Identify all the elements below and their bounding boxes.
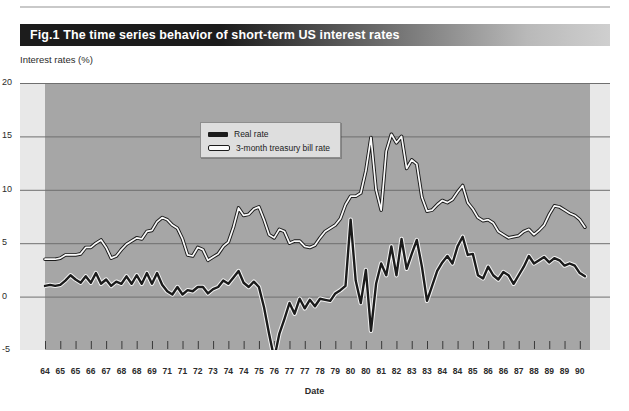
legend-swatch-real-rate-icon — [208, 132, 228, 137]
x-tick-label-3: 66 — [86, 366, 95, 376]
x-tick-label-28: 85 — [468, 366, 477, 376]
x-tick-label-27: 84 — [453, 366, 462, 376]
top-divider-rule — [20, 6, 610, 8]
x-tick-label-25: 83 — [422, 366, 431, 376]
real-rate-line-core — [45, 220, 585, 350]
x-tick-label-5: 68 — [117, 366, 126, 376]
x-tick-label-23: 82 — [392, 366, 401, 376]
x-tick-label-7: 69 — [147, 366, 156, 376]
legend-label-tbill-rate: 3-month treasury bill rate — [236, 143, 330, 153]
legend-label-real-rate: Real rate — [234, 129, 269, 139]
x-tick-label-33: 89 — [545, 366, 554, 376]
x-tick-label-18: 78 — [315, 366, 324, 376]
x-tick-label-17: 77 — [300, 366, 309, 376]
x-tick-label-4: 67 — [101, 366, 110, 376]
real-rate-line-halo — [45, 220, 585, 350]
x-tick-label-12: 74 — [224, 366, 233, 376]
x-tick-label-11: 73 — [208, 366, 217, 376]
x-tick-label-14: 75 — [254, 366, 263, 376]
x-tick-label-21: 80 — [361, 366, 370, 376]
x-tick-label-20: 80 — [346, 366, 355, 376]
legend-item-real-rate: Real rate — [208, 127, 340, 141]
x-tick-label-24: 83 — [407, 366, 416, 376]
legend-swatch-tbill-rate-icon — [208, 145, 230, 151]
figure-container: Fig.1 The time series behavior of short-… — [0, 0, 629, 411]
x-tick-label-16: 77 — [285, 366, 294, 376]
y-tick-label-5: 5 — [2, 237, 18, 247]
series-real-rate — [45, 220, 585, 350]
x-tick-label-10: 72 — [193, 366, 202, 376]
x-tick-label-32: 88 — [529, 366, 538, 376]
x-tick-label-0: 64 — [40, 366, 49, 376]
chart-legend: Real rate 3-month treasury bill rate — [200, 122, 341, 158]
x-tick-label-6: 68 — [132, 366, 141, 376]
y-tick-label-0: 0 — [2, 291, 18, 301]
x-tick-label-1: 65 — [56, 366, 65, 376]
legend-item-tbill-rate: 3-month treasury bill rate — [208, 141, 340, 155]
y-tick-label-15: 15 — [2, 130, 18, 140]
x-tick-label-15: 76 — [269, 366, 278, 376]
x-tick-label-8: 71 — [163, 366, 172, 376]
y-axis-title: Interest rates (%) — [20, 54, 93, 65]
y-tick-label--5: -5 — [2, 344, 18, 354]
x-tick-label-22: 81 — [376, 366, 385, 376]
figure-title-bar: Fig.1 The time series behavior of short-… — [20, 24, 610, 46]
x-tick-label-34: 89 — [560, 366, 569, 376]
x-axis-title: Date — [0, 386, 629, 396]
x-tick-label-35: 90 — [575, 366, 584, 376]
x-tick-label-31: 87 — [514, 366, 523, 376]
x-tickmarks-group — [46, 341, 581, 349]
page-title: Fig.1 The time series behavior of short-… — [30, 28, 400, 42]
x-tick-label-29: 86 — [483, 366, 492, 376]
x-tick-label-26: 84 — [438, 366, 447, 376]
y-tick-label-20: 20 — [2, 77, 18, 87]
x-tick-label-30: 86 — [499, 366, 508, 376]
x-tick-label-13: 74 — [239, 366, 248, 376]
x-tick-label-2: 65 — [71, 366, 80, 376]
y-tick-label-10: 10 — [2, 184, 18, 194]
x-tick-label-19: 79 — [331, 366, 340, 376]
x-tick-label-9: 71 — [178, 366, 187, 376]
